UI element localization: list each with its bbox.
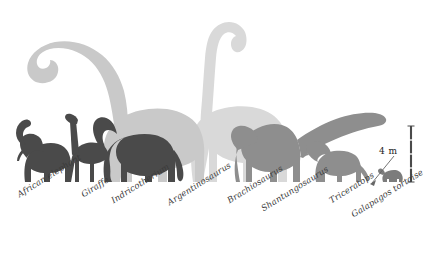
size-comparison-figure: 4 m African elephant Giraffe Indricother…: [0, 0, 424, 261]
scale-bar-label: 4 m: [379, 146, 397, 156]
silhouettes-canvas: [0, 0, 424, 261]
silhouette-stage: 4 m African elephant Giraffe Indricother…: [0, 0, 424, 261]
